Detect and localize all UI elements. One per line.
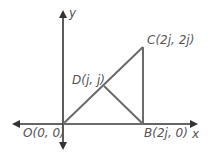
point-label-o: O(0, 0): [23, 126, 65, 140]
segment-db: [104, 86, 143, 124]
point-label-d: D(j, j): [72, 73, 105, 87]
y-axis-label: y: [68, 6, 77, 20]
point-label-c: C(2j, 2j): [147, 33, 194, 47]
x-axis-label: x: [191, 127, 200, 141]
coordinate-diagram: x y O(0, 0) B(2j, 0) C(2j, 2j) D(j, j): [0, 0, 210, 160]
point-label-b: B(2j, 0): [144, 126, 188, 140]
